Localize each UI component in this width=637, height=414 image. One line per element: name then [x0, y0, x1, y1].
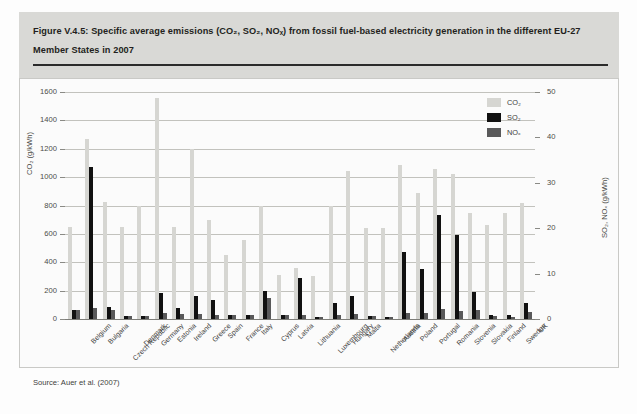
y-axis-left-tick-label: 600	[17, 229, 57, 238]
bar-NO-romania	[441, 309, 445, 319]
bar-CO-uk	[520, 203, 524, 319]
legend-item: NOₓ	[487, 126, 521, 139]
bar-group	[291, 268, 308, 319]
y-axis-left-tick-label: 1400	[17, 115, 57, 124]
bar-CO-netherlands	[364, 228, 368, 320]
bar-group	[483, 225, 500, 319]
y-axis-left-tick-label: 400	[17, 257, 57, 266]
y-axis-right-tick-label: 10	[547, 269, 587, 278]
bar-NO-uk	[528, 312, 532, 319]
y-axis-right-tick	[535, 92, 540, 93]
y-axis-right-tick-label: 20	[547, 223, 587, 232]
bar-NO-slovenia	[459, 311, 463, 319]
bar-CO-france	[224, 255, 228, 319]
bar-group	[500, 213, 517, 319]
bar-CO-sweden	[503, 213, 507, 319]
bar-SO-lithuania	[298, 278, 302, 319]
bar-NO-cyprus	[267, 298, 271, 319]
bar-group	[431, 169, 448, 319]
bar-group	[274, 275, 291, 319]
bar-group	[117, 227, 134, 319]
bar-CO-denmark	[120, 227, 124, 319]
bar-group	[256, 206, 273, 320]
y-axis-left-tick-label: 1000	[17, 172, 57, 181]
bar-CO-czech-republic	[103, 202, 107, 319]
bar-CO-luxembourg	[311, 276, 315, 319]
y-axis-right-tick	[535, 228, 540, 229]
bar-CO-hungary	[329, 206, 333, 320]
legend-swatch	[487, 98, 501, 107]
legend-item: CO₂	[487, 96, 521, 109]
legend-label: CO₂	[507, 98, 521, 107]
bar-group	[378, 228, 395, 320]
bar-NO-belgium	[76, 310, 80, 319]
bar-NO-slovakia	[476, 310, 480, 319]
figure-page: Figure V.4.5: Specific average emissions…	[0, 0, 637, 414]
y-axis-right-tick	[535, 319, 540, 320]
bar-CO-ireland	[172, 227, 176, 319]
bar-group	[82, 139, 99, 319]
bar-group	[448, 174, 465, 319]
legend-swatch	[487, 113, 501, 122]
bar-CO-austria	[381, 228, 385, 320]
legend-item: SO₂	[487, 111, 521, 124]
bar-group	[135, 206, 152, 320]
y-axis-left-title: CO₂ (g/kWh)	[25, 132, 34, 175]
y-axis-right-tick-label: 50	[547, 87, 587, 96]
figure-caption: Figure V.4.5: Specific average emissions…	[33, 22, 608, 60]
bar-group	[187, 149, 204, 319]
y-axis-left-tick-label: 0	[17, 314, 57, 323]
bar-SO-romania	[437, 215, 441, 319]
bar-group	[518, 203, 535, 319]
legend-label: SO₂	[507, 113, 521, 122]
legend-swatch	[487, 128, 501, 137]
y-axis-left-tick-label: 200	[17, 286, 57, 295]
plot-area	[65, 92, 535, 319]
bar-group	[326, 206, 343, 320]
source-note: Source: Auer et al. (2007)	[33, 378, 120, 387]
bar-SO-portugal	[420, 269, 424, 319]
bar-CO-germany	[137, 206, 141, 320]
y-axis-right-tick-label: 0	[547, 314, 587, 323]
bar-NO-bulgaria	[93, 308, 97, 319]
bar-group	[413, 193, 430, 319]
y-axis-right-title: SO₂, NOₓ (g/kWh)	[600, 177, 609, 238]
bar-group	[222, 255, 239, 319]
legend-label: NOₓ	[507, 128, 521, 137]
bar-group	[239, 240, 256, 319]
bar-CO-belgium	[68, 227, 72, 319]
bar-group	[309, 276, 326, 319]
bar-group	[169, 227, 186, 319]
y-axis-right-tick-label: 30	[547, 178, 587, 187]
y-axis-right-tick-label: 40	[547, 132, 587, 141]
bar-group	[65, 227, 82, 319]
x-axis-line	[65, 319, 535, 320]
bar-group	[204, 220, 221, 319]
bar-group	[100, 202, 117, 319]
y-axis-right-tick	[535, 137, 540, 138]
chart-legend: CO₂SO₂NOₓ	[487, 96, 521, 141]
bar-group	[344, 171, 361, 319]
bar-group	[396, 165, 413, 319]
bar-SO-bulgaria	[89, 167, 93, 319]
bar-CO-greece	[190, 149, 194, 319]
bar-group	[465, 213, 482, 319]
bar-CO-latvia	[277, 275, 281, 319]
y-axis-left-tick-label: 1600	[17, 87, 57, 96]
bar-SO-poland	[402, 252, 406, 319]
bar-CO-estonia	[155, 98, 159, 319]
bar-CO-italy	[242, 240, 246, 319]
figure-caption-line1: Figure V.4.5: Specific average emissions…	[33, 22, 608, 41]
bar-CO-finland	[485, 225, 489, 319]
caption-divider	[33, 64, 608, 66]
bar-group	[152, 98, 169, 319]
bar-NO-czech-republic	[111, 310, 115, 319]
bar-group	[361, 228, 378, 320]
y-axis-right-tick	[535, 183, 540, 184]
y-axis-left-tick-label: 1200	[17, 144, 57, 153]
figure-caption-line2: Member States in 2007	[33, 41, 608, 60]
y-axis-left-tick-label: 800	[17, 201, 57, 210]
y-axis-right-tick	[535, 274, 540, 275]
bar-SO-slovenia	[455, 235, 459, 319]
